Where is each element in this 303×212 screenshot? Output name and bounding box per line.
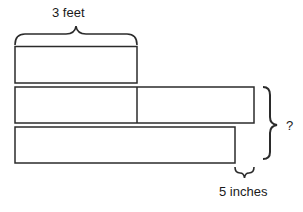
bottom-brace [235, 167, 254, 178]
bottom-label: 5 inches [219, 184, 267, 199]
right-brace [263, 87, 277, 159]
tape-diagram [0, 0, 303, 212]
bar-2 [15, 87, 254, 123]
top-brace [15, 26, 137, 45]
bar-1 [15, 47, 137, 84]
right-label: ? [286, 118, 293, 133]
bar-3 [15, 127, 235, 163]
top-label: 3 feet [52, 5, 85, 20]
